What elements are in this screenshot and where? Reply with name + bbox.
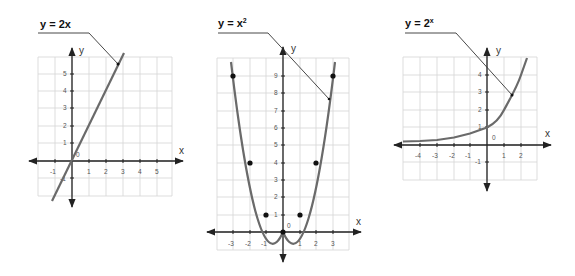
y-tick-label: 4	[63, 87, 67, 94]
y-tick-label: 2	[63, 122, 67, 129]
graph-quadratic: -3 -2 -1 1 2 3 9 8 7 6 5 4 3 2 1 0 x y y…	[207, 17, 361, 262]
x-axis-label: x	[356, 216, 361, 227]
graph-title: y = 2x	[40, 18, 72, 30]
x-tick-label: -4	[415, 152, 421, 159]
marked-point	[328, 98, 331, 101]
marked-point	[511, 94, 514, 97]
marked-point	[117, 63, 120, 66]
x-tick-label: -3	[432, 152, 438, 159]
y-tick-label: 7	[274, 107, 278, 114]
y-tick-label: 5	[274, 141, 278, 148]
y-tick-label: 2	[478, 106, 482, 113]
x-tick-label: -2	[449, 152, 455, 159]
graph-linear: -1 1 2 3 4 5 5 4 3 2 1 -1 0 x y y = 2x	[29, 18, 184, 207]
leader-line	[405, 33, 512, 95]
origin-label: 0	[287, 222, 291, 229]
graph-title: y = 2x	[405, 17, 434, 29]
x-tick-label: 1	[502, 152, 506, 159]
x-tick-label: -1	[50, 168, 56, 175]
y-tick-label: 2	[274, 193, 278, 200]
graph-title: y = x2	[218, 17, 247, 29]
x-tick-label: 1	[87, 168, 91, 175]
y-tick-label: 3	[63, 104, 67, 111]
y-tick-label: 1	[274, 211, 278, 218]
exponential-curve	[403, 58, 527, 142]
y-tick-label: 9	[274, 72, 278, 79]
grid-linear	[38, 57, 172, 196]
x-tick-label: -1	[465, 152, 471, 159]
origin-label: 0	[492, 134, 496, 141]
y-axis-label: y	[79, 45, 84, 56]
y-tick-label: 4	[478, 71, 482, 78]
y-tick-label: 1	[63, 139, 67, 146]
y-tick-label: 3	[478, 88, 482, 95]
y-tick-label: 8	[274, 89, 278, 96]
x-axis-label: x	[545, 128, 550, 139]
y-tick-label: 6	[274, 124, 278, 131]
x-tick-label: -2	[245, 240, 251, 247]
x-tick-label: 4	[138, 168, 142, 175]
y-tick-label: 5	[63, 70, 67, 77]
x-tick-label: -1	[261, 240, 267, 247]
y-tick-label: 4	[274, 159, 278, 166]
x-tick-label: -3	[228, 240, 234, 247]
x-tick-label: 5	[155, 168, 159, 175]
graph-exponential: -4 -3 -2 -1 1 2 4 3 2 1 -1 0 x y y = 2x	[394, 17, 551, 191]
x-axis-label: x	[179, 145, 184, 156]
y-axis-label: y	[496, 45, 501, 56]
x-tick-label: 2	[519, 152, 523, 159]
figure-canvas: -1 1 2 3 4 5 5 4 3 2 1 -1 0 x y y = 2x	[0, 0, 575, 276]
x-tick-label: 2	[314, 240, 318, 247]
y-tick-label: -1	[475, 158, 481, 165]
x-tick-label: 3	[121, 168, 125, 175]
x-tick-label: 3	[331, 240, 335, 247]
y-tick-label: 3	[274, 176, 278, 183]
grid-exponential	[403, 57, 537, 180]
x-tick-label: 2	[104, 168, 108, 175]
y-axis-label: y	[291, 43, 296, 54]
